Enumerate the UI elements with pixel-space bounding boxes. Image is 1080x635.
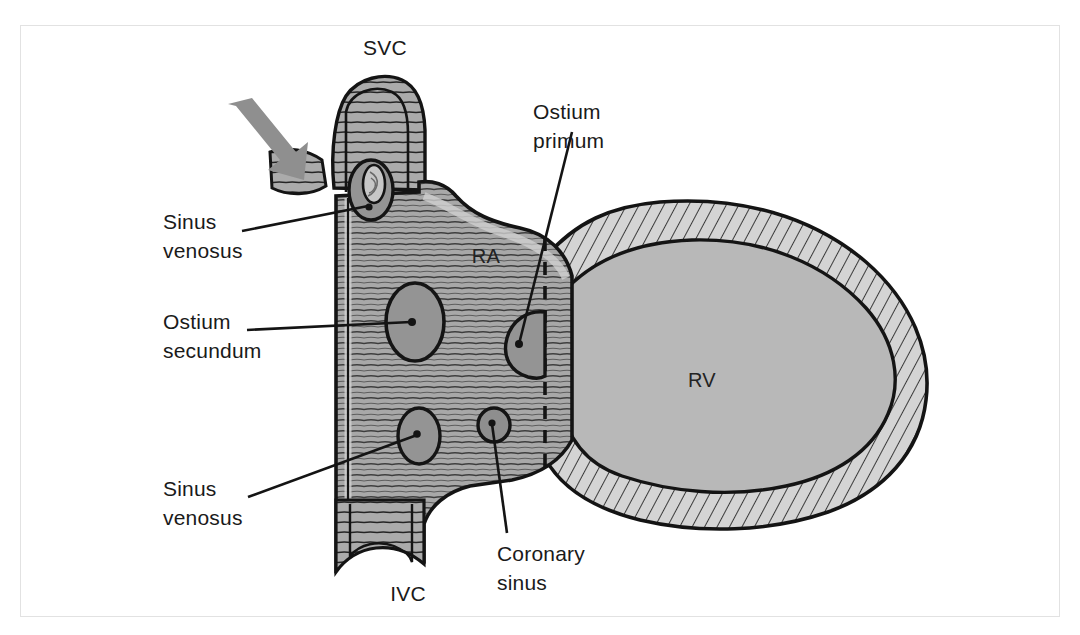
anomalous-drainage-arrow-icon (228, 98, 308, 180)
label-ra: RA (472, 245, 501, 267)
svg-text:venosus: venosus (163, 506, 243, 529)
svg-text:venosus: venosus (163, 239, 243, 262)
svg-text:Ostium: Ostium (163, 310, 231, 333)
svg-text:Ostium: Ostium (533, 100, 601, 123)
label-sinus-venosus-lower: Sinus venosus (163, 477, 243, 529)
label-ostium-primum: Ostium primum (533, 100, 604, 152)
inferior-vena-cava-vessel (336, 500, 424, 572)
cardiac-anatomy-diagram: SVC IVC RA RV Sinus venosus Ostium secun… (0, 0, 1080, 635)
label-svc: SVC (363, 36, 407, 59)
svg-text:sinus: sinus (497, 571, 547, 594)
label-coronary-sinus: Coronary sinus (497, 542, 585, 594)
label-sinus-venosus-upper: Sinus venosus (163, 210, 243, 262)
svg-text:Sinus: Sinus (163, 477, 217, 500)
svg-text:primum: primum (533, 129, 604, 152)
svg-text:Sinus: Sinus (163, 210, 217, 233)
sinus-venosus-defect-superior[interactable] (349, 160, 393, 220)
figure-root: SVC IVC RA RV Sinus venosus Ostium secun… (0, 0, 1080, 635)
label-ostium-secundum: Ostium secundum (163, 310, 262, 362)
svg-text:Coronary: Coronary (497, 542, 585, 565)
label-ivc: IVC (390, 582, 426, 605)
sinus-venosus-defect-inferior[interactable] (398, 408, 440, 464)
svg-text:secundum: secundum (163, 339, 262, 362)
label-rv: RV (688, 369, 716, 391)
